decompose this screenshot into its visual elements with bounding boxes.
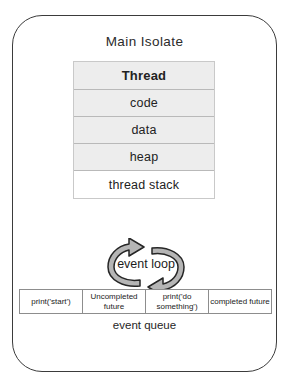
memory-cell-thread-stack: thread stack bbox=[74, 171, 214, 198]
event-loop-group: event loop bbox=[96, 238, 196, 296]
memory-cell-code: code bbox=[74, 90, 214, 117]
main-isolate-container: Main Isolate Thread code data heap threa… bbox=[12, 15, 277, 372]
queue-cell-uncompleted-future: Uncompleted future bbox=[83, 290, 146, 313]
memory-cell-thread: Thread bbox=[74, 62, 214, 90]
queue-cell-print-do-something: print('do something') bbox=[146, 290, 209, 313]
queue-cell-print-start: print('start') bbox=[20, 290, 83, 313]
event-queue-row: print('start') Uncompleted future print(… bbox=[19, 289, 272, 314]
queue-cell-completed-future: completed future bbox=[209, 290, 271, 313]
memory-stack: Thread code data heap thread stack bbox=[73, 61, 215, 199]
circular-arrows-icon bbox=[96, 238, 196, 296]
main-isolate-title: Main Isolate bbox=[13, 34, 276, 49]
memory-cell-heap: heap bbox=[74, 144, 214, 171]
event-queue-label: event queue bbox=[13, 319, 276, 331]
memory-cell-data: data bbox=[74, 117, 214, 144]
isolate-diagram: Main Isolate Thread code data heap threa… bbox=[0, 0, 291, 384]
